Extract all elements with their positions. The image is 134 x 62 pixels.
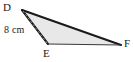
side-length-label-de: 8 cm (4, 25, 25, 35)
geometry-figure: D E F 8 cm (0, 0, 134, 62)
vertex-label-d: D (3, 2, 11, 13)
vertex-label-e: E (43, 48, 50, 59)
vertex-label-f: F (124, 38, 130, 49)
